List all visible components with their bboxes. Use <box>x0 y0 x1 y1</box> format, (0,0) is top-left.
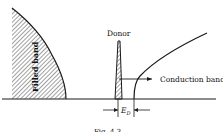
donor-label: Donor <box>107 29 131 38</box>
band-diagram: Filled band Donor Conduction band ED Fig… <box>0 0 223 132</box>
ed-label: ED <box>120 106 131 116</box>
ed-arrowhead-left <box>114 108 118 112</box>
donor-level-peak <box>115 41 122 99</box>
conduction-band-curve <box>134 33 207 99</box>
filled-band-label: Filled band <box>30 41 40 92</box>
ed-arrowhead-right <box>134 108 138 112</box>
conduction-band-label: Conduction band <box>160 75 223 84</box>
pointer-arrowhead <box>147 77 152 81</box>
figure-caption: Fig. 4.3 <box>94 128 121 132</box>
